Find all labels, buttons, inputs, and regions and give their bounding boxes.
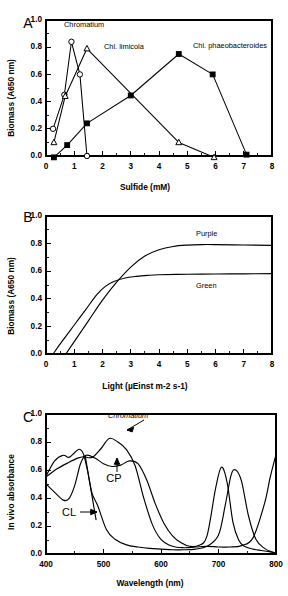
panel-a-point-2-4 [176, 52, 181, 57]
yticklabel-panel_b-0: 0.0 [31, 349, 43, 358]
panel-c-series-0 [46, 438, 276, 547]
yticklabel-panel_c-1: 0.2 [31, 521, 43, 530]
panel-b-xlabel: Light (µEinst m-2 s-1) [102, 381, 188, 391]
xticklabel-panel_a-2: 2 [100, 162, 105, 171]
xticklabel-panel_b-2: 2 [100, 360, 105, 369]
panel-c-label-chromatium: Chromatium [108, 411, 148, 420]
yticklabel-panel_b-5: 1.0 [31, 211, 43, 220]
xticklabel-panel_b-0: 0 [44, 360, 49, 369]
panel-a-point-2-2 [85, 121, 90, 126]
scientific-figure: A 0123456780.00.20.40.60.81.0 Sulfide (m… [0, 0, 288, 596]
xticklabel-panel_b-8: 8 [270, 360, 275, 369]
xticklabel-panel_b-7: 7 [241, 360, 246, 369]
panel-a-xlabel: Sulfide (mM) [120, 182, 170, 192]
panel-b-ylabel: Biomass (A650 nm) [6, 257, 16, 335]
panel-c-xlabel: Wavelength (nm) [116, 578, 183, 588]
panel-a-label-phaeobacteroides: Chl. phaeobacteroides [193, 41, 267, 50]
xticklabel-panel_a-5: 5 [185, 162, 190, 171]
yticklabel-panel_c-0: 0.0 [31, 549, 43, 558]
panel-a-point-2-3 [128, 93, 133, 98]
panel-c-arrowhead-cp [114, 458, 119, 464]
panel-a: A 0123456780.00.20.40.60.81.0 Sulfide (m… [0, 0, 288, 196]
panel-a-point-2-1 [65, 143, 70, 148]
panel-a-point-2-0 [52, 155, 57, 160]
panel-a-point-0-4 [84, 153, 89, 158]
yticklabel-panel_b-2: 0.4 [31, 294, 43, 303]
xticklabel-panel_a-0: 0 [44, 162, 49, 171]
panel-a-point-0-0 [50, 126, 55, 131]
panel-a-point-1-0 [51, 139, 57, 145]
xticklabel-panel_a-7: 7 [241, 162, 246, 171]
panel-a-point-2-6 [244, 152, 249, 157]
panel-a-label-chromatium: Chromatium [64, 20, 104, 29]
panel-b: B 0123456780.00.20.40.60.81.0 Light (µEi… [0, 196, 288, 396]
xticklabel-panel_a-1: 1 [72, 162, 77, 171]
panel-a-label-limicola: Chl. limicola [104, 42, 145, 51]
xticklabel-panel_c-1: 500 [97, 560, 111, 569]
panel-b-curves [53, 245, 272, 354]
panel-a-point-1-2 [84, 45, 90, 51]
xticklabel-panel_c-0: 400 [39, 560, 53, 569]
yticklabel-panel_a-1: 0.2 [31, 124, 43, 133]
xticklabel-panel_a-8: 8 [270, 162, 275, 171]
panel-a-ylabel: Biomass (A650 nm) [6, 59, 16, 137]
panel-b-plot: B 0123456780.00.20.40.60.81.0 Light (µEi… [0, 196, 288, 396]
panel-c-tick-labels: 4005006007008000.00.20.40.60.81.0 [31, 409, 284, 569]
xticklabel-panel_c-2: 600 [154, 560, 168, 569]
yticklabel-panel_b-4: 0.8 [31, 239, 43, 248]
panel-c-plot: C 4005006007008000.00.20.40.60.81.0 Wave… [0, 396, 288, 596]
panel-b-label-purple: Purple [196, 229, 217, 238]
xticklabel-panel_b-5: 5 [185, 360, 190, 369]
panel-c: C 4005006007008000.00.20.40.60.81.0 Wave… [0, 396, 288, 596]
yticklabel-panel_a-0: 0.0 [31, 151, 43, 160]
plot-frame-panel_c [46, 414, 276, 554]
xticklabel-panel_b-6: 6 [213, 360, 218, 369]
xticklabel-panel_b-1: 1 [72, 360, 77, 369]
panel-b-tick-labels: 0123456780.00.20.40.60.81.0 [31, 211, 275, 369]
yticklabel-panel_a-4: 0.8 [31, 42, 43, 51]
panel-a-plot: A 0123456780.00.20.40.60.81.0 Sulfide (m… [0, 0, 288, 196]
yticklabel-panel_a-3: 0.6 [31, 70, 43, 79]
yticklabel-panel_c-4: 0.8 [31, 437, 43, 446]
panel-a-point-2-5 [210, 72, 215, 77]
panel-c-ylabel: In vivo absorbance [6, 454, 16, 530]
yticklabel-panel_a-2: 0.4 [31, 97, 43, 106]
yticklabel-panel_c-2: 0.4 [31, 493, 43, 502]
panel-a-point-0-3 [77, 72, 82, 77]
panel-c-label-cp: CP [106, 472, 121, 484]
xticklabel-panel_b-3: 3 [128, 360, 133, 369]
yticklabel-panel_c-3: 0.6 [31, 465, 43, 474]
panel-c-axes [46, 414, 276, 554]
yticklabel-panel_c-5: 1.0 [31, 409, 43, 418]
yticklabel-panel_b-1: 0.2 [31, 322, 43, 331]
xticklabel-panel_a-6: 6 [213, 162, 218, 171]
panel-c-curves [46, 438, 276, 553]
yticklabel-panel_b-3: 0.6 [31, 266, 43, 275]
panel-b-series-0 [66, 245, 272, 354]
panel-a-point-0-2 [69, 39, 74, 44]
panel-b-label-green: Green [196, 281, 217, 290]
xticklabel-panel_a-3: 3 [128, 162, 133, 171]
panel-c-label-cl: CL [62, 506, 76, 518]
panel-c-arrowhead-cl [91, 509, 97, 514]
xticklabel-panel_a-4: 4 [157, 162, 162, 171]
xticklabel-panel_c-3: 700 [212, 560, 226, 569]
xticklabel-panel_b-4: 4 [157, 360, 162, 369]
panel-a-curves [50, 39, 249, 160]
xticklabel-panel_c-4: 800 [269, 560, 283, 569]
yticklabel-panel_a-5: 1.0 [31, 15, 43, 24]
panel-b-series-1 [53, 274, 272, 354]
panel-a-point-1-4 [211, 154, 217, 160]
